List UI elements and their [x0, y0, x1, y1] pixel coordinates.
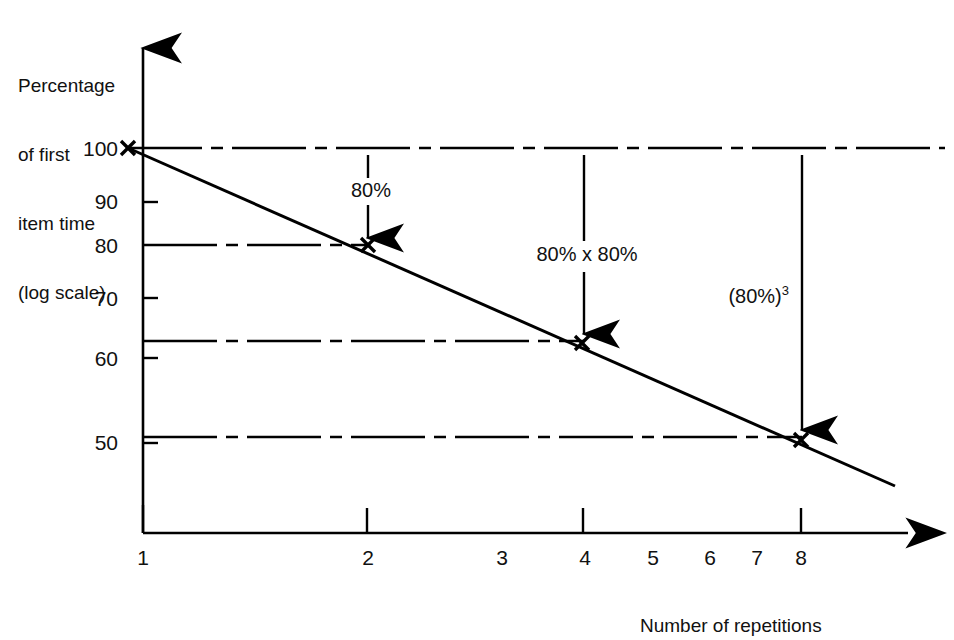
x-tick-label-1: 1 — [125, 546, 161, 570]
y-axis-ticks — [143, 202, 158, 443]
x-axis-title-line-1: Number of repetitions — [640, 614, 822, 637]
annotation-label-second: 80% x 80% — [508, 243, 666, 266]
learning-curve-chart: Percentage of first item time (log scale… — [0, 0, 954, 640]
x-tick-label-2: 2 — [350, 546, 386, 570]
annotation-third-base: (80%) — [728, 285, 781, 307]
y-tick-label-50: 50 — [62, 431, 118, 455]
x-axis-title: Number of repetitions (log scale) — [640, 568, 822, 640]
x-tick-label-7: 7 — [739, 546, 775, 570]
y-tick-label-90: 90 — [62, 190, 118, 214]
chart-canvas — [0, 0, 954, 640]
y-tick-label-60: 60 — [62, 347, 118, 371]
annotation-label-third: (80%)3 — [676, 285, 792, 308]
y-axis-title-line-3: item time — [18, 212, 115, 235]
x-axis-ticks — [143, 505, 801, 533]
y-tick-label-80: 80 — [62, 234, 118, 258]
x-tick-label-6: 6 — [692, 546, 728, 570]
x-tick-label-4: 4 — [567, 546, 603, 570]
x-tick-label-5: 5 — [635, 546, 671, 570]
x-tick-label-3: 3 — [484, 546, 520, 570]
y-tick-label-100: 100 — [62, 137, 118, 161]
learning-curve-line — [128, 148, 895, 486]
y-tick-label-70: 70 — [62, 287, 118, 311]
y-axis-title-line-1: Percentage — [18, 74, 115, 97]
reference-lines — [128, 148, 945, 437]
annotation-label-first: 80% — [330, 179, 412, 202]
x-tick-label-8: 8 — [783, 546, 819, 570]
annotation-third-exponent: 3 — [782, 283, 789, 298]
